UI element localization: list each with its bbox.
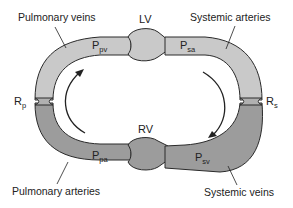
systemic-veins-vessel xyxy=(165,103,263,172)
pressure-pa: Ppa xyxy=(92,150,108,164)
label-rv: RV xyxy=(138,124,153,135)
systemic-resistance xyxy=(240,98,262,105)
label-lv: LV xyxy=(139,14,152,25)
left-ventricle xyxy=(128,29,168,61)
label-pulmonary-veins: Pulmonary veins xyxy=(18,12,96,23)
leader-pulmonary-arteries xyxy=(57,162,68,184)
label-systemic-arteries: Systemic arteries xyxy=(190,12,271,23)
leader-pulmonary-veins xyxy=(55,27,66,48)
label-systemic-veins: Systemic veins xyxy=(204,187,274,198)
circulation-diagram xyxy=(0,0,293,208)
pulmonary-resistance xyxy=(35,98,53,105)
resistance-pulmonary: Rp xyxy=(14,96,26,110)
flow-arrow-left-icon xyxy=(65,72,85,133)
pulmonary-veins-vessel xyxy=(35,37,131,100)
pressure-sv: Psv xyxy=(195,152,210,166)
pressure-sa: Psa xyxy=(180,40,195,54)
label-pulmonary-arteries: Pulmonary arteries xyxy=(12,186,100,197)
pressure-pv: Ppv xyxy=(92,40,107,54)
right-ventricle xyxy=(128,138,168,170)
resistance-systemic: Rs xyxy=(266,96,278,110)
flow-arrow-right-icon xyxy=(203,72,225,135)
